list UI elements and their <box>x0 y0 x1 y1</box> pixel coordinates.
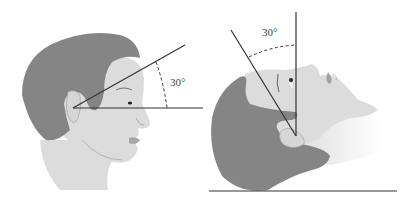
left-eye <box>128 101 132 104</box>
left-head-figure: 30° <box>22 33 203 190</box>
right-eye <box>289 78 293 82</box>
right-angle-label: 30° <box>262 26 277 38</box>
diagram-svg: 30° <box>0 0 407 204</box>
left-angle-label: 30° <box>170 76 185 88</box>
right-angle-arc <box>249 45 296 57</box>
left-lips <box>129 137 140 144</box>
left-angle-arc <box>156 62 167 108</box>
diagram-canvas: 30° <box>0 0 407 204</box>
right-head-figure: 30° <box>209 12 397 191</box>
